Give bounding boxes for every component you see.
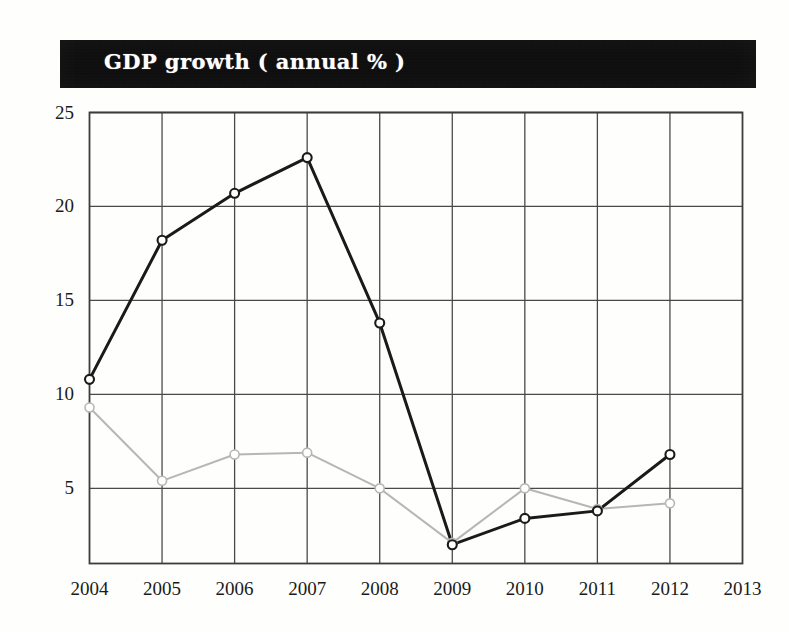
data-point-series-dark xyxy=(593,506,602,515)
x-axis-tick-label: 2007 xyxy=(269,578,345,600)
data-point-series-dark xyxy=(448,540,457,549)
x-axis-tick-label: 2011 xyxy=(559,578,635,600)
gridlines xyxy=(90,113,743,564)
data-point-series-dark xyxy=(665,450,674,459)
data-point-series-light xyxy=(158,476,167,485)
x-axis-tick-label: 2010 xyxy=(487,578,563,600)
data-point-series-dark xyxy=(230,189,239,198)
data-point-series-light xyxy=(375,484,384,493)
x-axis-tick-label: 2004 xyxy=(52,578,128,600)
x-axis-tick-label: 2008 xyxy=(342,578,418,600)
data-point-series-dark xyxy=(85,375,94,384)
y-axis-tick-label: 20 xyxy=(14,195,74,217)
data-point-series-light xyxy=(303,448,312,457)
y-axis-tick-label: 5 xyxy=(14,477,74,499)
y-axis-tick-label: 15 xyxy=(14,289,74,311)
chart-svg xyxy=(0,0,789,632)
plot-frame xyxy=(90,113,743,564)
plot-area: 252015105 200420052006200720082009201020… xyxy=(0,0,789,632)
data-point-series-dark xyxy=(303,153,312,162)
axis-frame xyxy=(90,113,743,564)
y-axis-tick-label: 10 xyxy=(14,383,74,405)
data-point-series-light xyxy=(520,484,529,493)
data-point-series-light xyxy=(85,403,94,412)
data-point-series-light xyxy=(230,450,239,459)
data-point-series-dark xyxy=(158,236,167,245)
chart-page: GDP growth ( annual % ) 252015105 200420… xyxy=(0,0,789,632)
x-axis-tick-label: 2006 xyxy=(197,578,273,600)
x-axis-tick-label: 2009 xyxy=(414,578,490,600)
data-point-series-dark xyxy=(375,318,384,327)
data-point-series-dark xyxy=(520,514,529,523)
x-axis-tick-label: 2013 xyxy=(705,578,781,600)
y-axis-tick-label: 25 xyxy=(14,102,74,124)
x-axis-tick-label: 2012 xyxy=(632,578,708,600)
x-axis-tick-label: 2005 xyxy=(124,578,200,600)
data-point-series-light xyxy=(665,499,674,508)
page-title: GDP growth ( annual % ) xyxy=(104,49,405,74)
